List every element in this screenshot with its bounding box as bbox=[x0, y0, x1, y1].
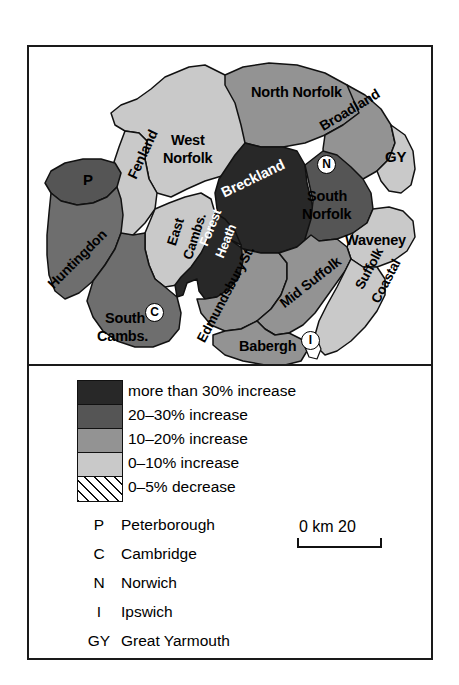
legend-label-2: 10–20% increase bbox=[128, 427, 296, 451]
figure-root: North Norfolk Broadland GY West Norfolk … bbox=[0, 0, 459, 685]
abbreviation-row: PPeterborough bbox=[77, 510, 327, 539]
abbreviation-row: CCambridge bbox=[77, 539, 327, 568]
legend-swatch-2 bbox=[78, 429, 122, 453]
legend-swatch-1 bbox=[78, 405, 122, 429]
scale-bar-label: 0 km 20 bbox=[297, 518, 407, 536]
abbreviation-name: Peterborough bbox=[121, 510, 215, 539]
legend-panel: more than 30% increase 20–30% increase 1… bbox=[29, 366, 431, 658]
abbreviation-row: GYGreat Yarmouth bbox=[77, 626, 327, 655]
scale-bar-graphic bbox=[297, 538, 382, 548]
legend-label-1: 20–30% increase bbox=[128, 403, 296, 427]
legend-label-3: 0–10% increase bbox=[128, 451, 296, 475]
abbreviation-name: Cambridge bbox=[121, 539, 197, 568]
cambridge-marker: C bbox=[145, 303, 164, 322]
abbreviation-key: P bbox=[77, 510, 121, 539]
legend-swatch-labels: more than 30% increase 20–30% increase 1… bbox=[128, 379, 296, 499]
map-graphic bbox=[29, 47, 431, 364]
legend-label-4: 0–5% decrease bbox=[128, 475, 296, 499]
abbreviation-list: PPeterborough CCambridge NNorwich IIpswi… bbox=[77, 510, 327, 655]
abbreviation-name: Norwich bbox=[121, 568, 177, 597]
abbreviation-row: NNorwich bbox=[77, 568, 327, 597]
norwich-marker: N bbox=[317, 155, 336, 174]
scale-bar: 0 km 20 bbox=[297, 518, 407, 548]
legend-swatch-3 bbox=[78, 453, 122, 477]
abbreviation-key: GY bbox=[77, 626, 121, 655]
legend-label-0: more than 30% increase bbox=[128, 379, 296, 403]
abbreviation-name: Great Yarmouth bbox=[121, 626, 230, 655]
abbreviation-key: C bbox=[77, 539, 121, 568]
legend-swatch-4 bbox=[78, 477, 122, 501]
abbreviation-key: I bbox=[77, 597, 121, 626]
ipswich-marker: I bbox=[301, 331, 320, 350]
legend-swatch-0 bbox=[78, 381, 122, 405]
abbreviation-name: Ipswich bbox=[121, 597, 173, 626]
legend-swatch-stack bbox=[77, 380, 123, 502]
abbreviation-key: N bbox=[77, 568, 121, 597]
figure-frame: North Norfolk Broadland GY West Norfolk … bbox=[27, 45, 433, 660]
abbreviation-row: IIpswich bbox=[77, 597, 327, 626]
map-panel: North Norfolk Broadland GY West Norfolk … bbox=[29, 47, 431, 364]
